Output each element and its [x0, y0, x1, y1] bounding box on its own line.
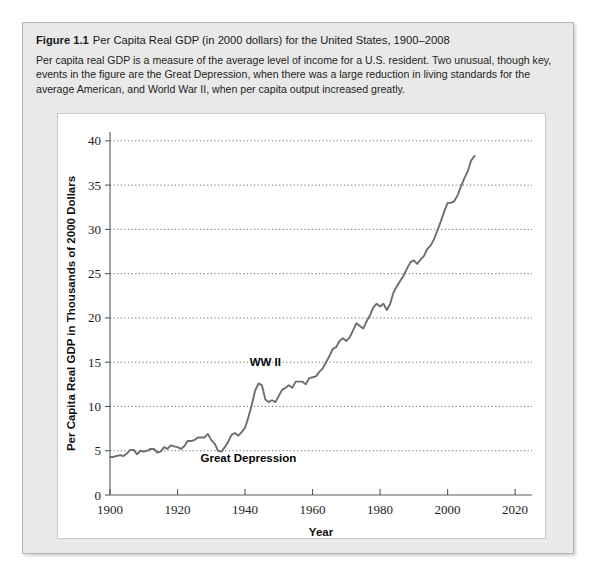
- figure-label: Figure 1.1: [36, 34, 89, 46]
- svg-text:5: 5: [95, 443, 102, 458]
- figure-title-text: Per Capita Real GDP (in 2000 dollars) fo…: [89, 34, 450, 46]
- svg-text:0: 0: [95, 488, 102, 503]
- y-axis: 0510152025303540: [88, 132, 110, 503]
- gdp-line-chart: 0510152025303540 19001920194019601980200…: [58, 114, 545, 538]
- y-axis-title: Per Capita Real GDP in Thousands of 2000…: [65, 176, 77, 451]
- x-axis: 1900192019401960198020002020: [97, 489, 532, 517]
- svg-text:1940: 1940: [232, 502, 258, 517]
- svg-text:1900: 1900: [97, 502, 123, 517]
- svg-text:20: 20: [88, 310, 101, 325]
- svg-text:10: 10: [88, 399, 101, 414]
- svg-text:30: 30: [88, 222, 101, 237]
- svg-text:1920: 1920: [165, 502, 191, 517]
- gridlines: [110, 141, 532, 451]
- svg-text:1960: 1960: [300, 502, 326, 517]
- svg-text:2000: 2000: [435, 502, 461, 517]
- data-series-line: [110, 156, 475, 457]
- svg-text:15: 15: [88, 355, 101, 370]
- svg-text:2020: 2020: [502, 502, 528, 517]
- annotation-great-depression: Great Depression: [200, 452, 296, 464]
- svg-text:40: 40: [88, 133, 101, 148]
- figure-panel: Figure 1.1Per Capita Real GDP (in 2000 d…: [22, 22, 574, 554]
- svg-text:1980: 1980: [367, 502, 393, 517]
- caption-block: Figure 1.1Per Capita Real GDP (in 2000 d…: [36, 33, 560, 96]
- annotation-ww-ii: WW II: [250, 356, 281, 368]
- figure-title: Figure 1.1Per Capita Real GDP (in 2000 d…: [36, 33, 560, 48]
- svg-text:25: 25: [88, 266, 101, 281]
- x-axis-title: Year: [309, 526, 334, 538]
- chart-annotations: WW IIGreat Depression: [200, 356, 296, 465]
- figure-caption: Per capita real GDP is a measure of the …: [36, 53, 560, 96]
- svg-text:35: 35: [88, 178, 101, 193]
- chart-container: 0510152025303540 19001920194019601980200…: [57, 113, 546, 539]
